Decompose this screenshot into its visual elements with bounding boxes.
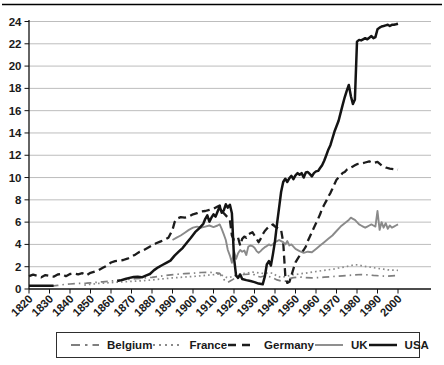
line-chart: 0246810121416182022241820183018401850186…	[0, 0, 444, 365]
x-axis-label: 1890	[152, 292, 178, 318]
legend-label: USA	[405, 339, 429, 351]
legend-item-usa: USA	[368, 339, 429, 351]
x-axis-label: 1940	[255, 292, 281, 318]
y-axis-label: 4	[15, 238, 22, 250]
legend-marker-belgium-icon	[70, 341, 100, 349]
x-axis-label: 1870	[111, 292, 137, 318]
y-axis-label: 14	[9, 127, 22, 139]
x-axis-label: 1830	[29, 292, 55, 318]
x-axis-label: 1880	[132, 292, 158, 318]
x-axis-label: 1960	[296, 292, 322, 318]
y-axis-label: 20	[9, 60, 22, 72]
x-axis-label: 1920	[214, 292, 240, 318]
x-axis-label: 1860	[91, 292, 117, 318]
y-axis-label: 6	[15, 216, 21, 228]
y-axis-label: 18	[9, 82, 22, 94]
y-axis-label: 16	[9, 105, 22, 117]
legend-item-belgium: Belgium	[70, 339, 152, 351]
x-axis-label: 1910	[193, 292, 219, 318]
x-axis-label: 1820	[9, 292, 35, 318]
x-axis-label: 1900	[173, 292, 199, 318]
series-line-belgium	[52, 272, 399, 286]
y-axis-label: 24	[9, 16, 22, 28]
x-axis-label: 1980	[337, 292, 363, 318]
legend-label: Belgium	[107, 339, 152, 351]
y-axis-label: 12	[9, 149, 22, 161]
legend-label: France	[189, 339, 227, 351]
y-axis-label: 8	[15, 194, 22, 206]
x-axis-label: 1970	[316, 292, 342, 318]
legend-marker-france-icon	[152, 341, 182, 349]
series-line-usa	[29, 24, 398, 286]
x-axis-label: 1840	[50, 292, 76, 318]
legend: BelgiumFranceGermanyUKUSA	[56, 332, 420, 358]
y-axis-label: 22	[9, 38, 22, 50]
x-axis-label: 1950	[275, 292, 301, 318]
y-axis-label: 0	[15, 283, 21, 295]
y-axis-label: 2	[15, 261, 21, 273]
x-axis-label: 2000	[378, 292, 404, 318]
legend-label: UK	[351, 339, 368, 351]
legend-item-france: France	[152, 339, 227, 351]
x-axis-label: 1930	[234, 292, 260, 318]
legend-label: Germany	[264, 339, 314, 351]
legend-marker-uk-icon	[314, 341, 344, 349]
x-axis-label: 1990	[357, 292, 383, 318]
legend-marker-usa-icon	[368, 341, 398, 349]
legend-item-uk: UK	[314, 339, 368, 351]
x-axis-label: 1850	[70, 292, 96, 318]
legend-marker-germany-icon	[227, 341, 257, 349]
y-axis-label: 10	[9, 172, 22, 184]
legend-item-germany: Germany	[227, 339, 314, 351]
